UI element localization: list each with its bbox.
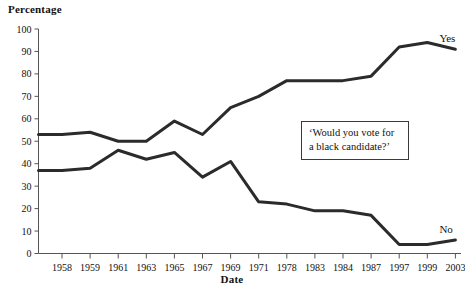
y-axis-tick-label: 40 [22, 158, 32, 169]
series-line-no [39, 150, 456, 244]
y-axis-tick-label: 0 [27, 248, 32, 259]
x-axis-tick-label: 1987 [361, 262, 381, 273]
x-axis-tick-label: 2003 [445, 262, 465, 273]
x-axis-tick-label: 1971 [249, 262, 269, 273]
series-label-yes: Yes [439, 32, 455, 44]
y-axis-title: Percentage [8, 3, 62, 15]
x-axis-ticks [62, 254, 455, 259]
y-axis-tick-label: 80 [22, 68, 32, 79]
x-axis-tick-label: 1969 [221, 262, 241, 273]
x-axis-tick-label: 1965 [164, 262, 184, 273]
y-axis-tick-label: 70 [22, 91, 32, 102]
y-axis-tick-labels: 0102030405060708090100 [17, 24, 32, 260]
x-axis-tick-label: 1959 [80, 262, 100, 273]
y-axis-tick-label: 90 [22, 46, 32, 57]
y-axis-tick-label: 10 [22, 226, 32, 237]
x-axis-tick-label: 1958 [52, 262, 72, 273]
x-axis-tick-labels: 1958195919611963196519671969197119781983… [52, 262, 465, 273]
x-axis-tick-label: 1963 [136, 262, 156, 273]
y-axis-ticks [35, 29, 39, 254]
y-axis-tick-label: 30 [22, 181, 32, 192]
x-axis-tick-label: 1983 [305, 262, 325, 273]
y-axis-tick-label: 20 [22, 203, 32, 214]
y-axis-tick-label: 100 [17, 24, 32, 35]
x-axis-title: Date [221, 273, 244, 285]
x-axis-tick-label: 1961 [108, 262, 128, 273]
y-axis-tick-label: 60 [22, 113, 32, 124]
x-axis-tick-label: 1999 [417, 262, 437, 273]
series-label-no: No [439, 223, 453, 235]
y-axis-tick-label: 50 [22, 136, 32, 147]
chart-figure: 0102030405060708090100 19581959196119631… [0, 0, 465, 291]
x-axis-tick-label: 1997 [389, 262, 409, 273]
x-axis-tick-label: 1967 [193, 262, 213, 273]
x-axis-tick-label: 1978 [277, 262, 297, 273]
series-end-labels: YesNo [439, 32, 455, 235]
x-axis-tick-label: 1984 [333, 262, 353, 273]
question-callout-box: ‘Would you vote for a black candidate?’ [301, 121, 409, 160]
